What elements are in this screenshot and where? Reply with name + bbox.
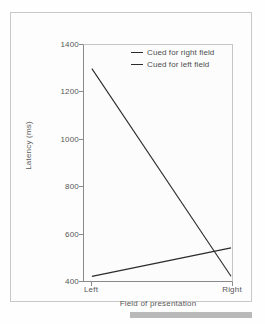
page-artifact-bar bbox=[130, 312, 252, 318]
y-tick-label-400: 400 bbox=[33, 278, 79, 286]
figure-frame: Latency (ms) 1400 1200 1000 800 600 400 bbox=[10, 12, 252, 302]
x-tick-label-right: Right bbox=[222, 285, 242, 294]
plot-area bbox=[83, 44, 233, 282]
y-tick-label-1200: 1200 bbox=[33, 88, 79, 96]
plot-svg bbox=[84, 45, 232, 281]
series-line-cued-for-right-field bbox=[92, 69, 231, 277]
y-tick-label-600: 600 bbox=[33, 231, 79, 239]
y-tick-label-800: 800 bbox=[33, 183, 79, 191]
y-tick-label-1000: 1000 bbox=[33, 136, 79, 144]
legend-swatch-icon-series-0 bbox=[131, 52, 143, 53]
legend-label-series-1: Cued for left field bbox=[147, 60, 209, 69]
x-axis-title: Field of presentation bbox=[83, 299, 233, 308]
y-tick-label-1400: 1400 bbox=[33, 41, 79, 49]
x-tick-label-left: Left bbox=[84, 285, 98, 294]
legend-item-cued-for-left-field: Cued for left field bbox=[131, 59, 236, 70]
series-line-cued-for-left-field bbox=[92, 248, 231, 276]
x-axis-tick-layer: Left Right bbox=[83, 285, 233, 297]
y-axis-tick-layer: 1400 1200 1000 800 600 400 bbox=[29, 44, 79, 282]
chart-legend: Cued for right field Cued for left field bbox=[131, 47, 236, 71]
legend-label-series-0: Cued for right field bbox=[147, 48, 214, 57]
figure-root: Latency (ms) 1400 1200 1000 800 600 400 bbox=[0, 0, 265, 324]
legend-swatch-icon-series-1 bbox=[131, 64, 143, 65]
legend-item-cued-for-right-field: Cued for right field bbox=[131, 47, 236, 58]
